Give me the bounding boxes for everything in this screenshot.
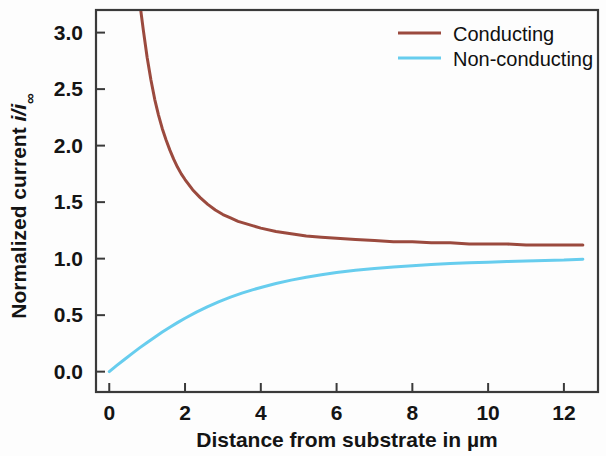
x-axis-ticks: [109, 383, 564, 392]
legend-label-conducting: Conducting: [453, 23, 554, 45]
y-axis-label-group: Normalized current i/i∞: [7, 93, 38, 319]
y-tick-label-3: 1.5: [54, 190, 84, 213]
y-tick-label-2: 1.0: [54, 247, 83, 270]
y-tick-label-6: 3.0: [54, 21, 83, 44]
y-tick-label-0: 0.0: [54, 360, 83, 383]
x-tick-label-2: 4: [255, 401, 267, 424]
y-axis-label-subscript: ∞: [21, 93, 38, 104]
x-axis-tick-labels: 024681012: [103, 401, 575, 424]
y-axis-tick-labels: 0.00.51.01.52.02.53.0: [54, 21, 84, 383]
y-tick-label-4: 2.0: [54, 134, 83, 157]
y-tick-label-1: 0.5: [54, 303, 84, 326]
chart-figure: 024681012 0.00.51.01.52.02.53.0 Distance…: [0, 0, 606, 456]
approach-curve-chart: 024681012 0.00.51.01.52.02.53.0 Distance…: [0, 0, 606, 456]
x-tick-label-4: 8: [407, 401, 419, 424]
x-tick-label-3: 6: [331, 401, 343, 424]
y-tick-label-5: 2.5: [54, 77, 84, 100]
series-line-conducting: [141, 10, 583, 245]
legend-label-non-conducting: Non-conducting: [453, 48, 593, 70]
x-axis-label: Distance from substrate in µm: [196, 428, 498, 451]
y-axis-ticks: [96, 33, 105, 372]
x-tick-label-5: 10: [476, 401, 499, 424]
legend: Conducting Non-conducting: [398, 23, 593, 70]
y-axis-label: Normalized current i/i∞: [7, 93, 38, 319]
x-tick-label-1: 2: [179, 401, 191, 424]
x-tick-label-0: 0: [103, 401, 115, 424]
x-tick-label-6: 12: [552, 401, 575, 424]
y-axis-label-prefix: Normalized current: [7, 122, 30, 319]
series-line-non-conducting: [109, 259, 583, 371]
y-axis-label-symbol: i/i: [7, 103, 30, 122]
